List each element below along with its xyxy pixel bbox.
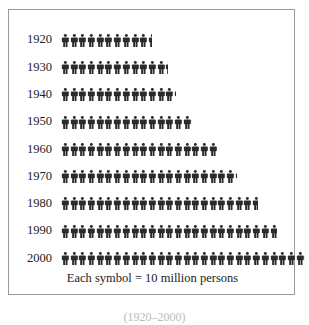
person-icon [70,143,79,156]
person-icon [104,197,113,210]
person-icon [96,34,105,47]
person-icon [61,61,70,74]
person-icon [87,34,96,47]
partial-person-icon [235,170,238,183]
pictograph-row-1930: 1930 [27,53,305,80]
year-label: 1960 [27,143,61,156]
person-icon [165,252,174,265]
person-icon [70,88,79,101]
person-icon [122,116,131,129]
person-icon [122,61,131,74]
person-icon [243,252,252,265]
partial-person-icon [270,225,278,238]
person-icon [252,225,261,238]
person-icon [78,61,87,74]
pictograph-row-1940: 1940 [27,81,305,108]
pictograph-row-1970: 1970 [27,162,305,189]
person-icon [131,88,140,101]
person-icon [200,252,209,265]
partial-person-icon [165,61,168,74]
person-icon [113,116,122,129]
person-icon [157,252,166,265]
person-icon [174,252,183,265]
person-icon [165,116,174,129]
year-label: 1970 [27,170,61,183]
person-icon [104,34,113,47]
person-icon [183,143,192,156]
symbol-bar [61,115,192,129]
person-icon [243,197,252,210]
person-icon [113,170,122,183]
person-icon [131,143,140,156]
person-icon [191,170,200,183]
person-icon [200,170,209,183]
person-icon [157,170,166,183]
person-icon [78,170,87,183]
partial-person-icon [304,252,305,265]
person-icon [191,252,200,265]
person-icon [96,197,105,210]
partial-person-icon [148,34,152,47]
person-icon [217,197,226,210]
person-icon [70,34,79,47]
person-icon [113,225,122,238]
person-icon [78,143,87,156]
person-icon [139,252,148,265]
person-icon [70,116,79,129]
person-icon [252,252,261,265]
person-icon [148,225,157,238]
partial-person-icon [174,88,176,101]
year-label: 1990 [27,224,61,237]
person-icon [165,143,174,156]
person-icon [87,61,96,74]
person-icon [174,197,183,210]
person-icon [165,170,174,183]
person-icon [61,143,70,156]
person-icon [104,225,113,238]
person-icon [183,170,192,183]
person-icon [243,225,252,238]
person-icon [122,34,131,47]
person-icon [226,225,235,238]
person-icon [200,225,209,238]
person-icon [96,61,105,74]
person-icon [113,34,122,47]
person-icon [148,61,157,74]
person-icon [122,225,131,238]
person-icon [200,197,209,210]
person-icon [287,252,296,265]
person-icon [183,225,192,238]
person-icon [226,170,235,183]
person-icon [174,225,183,238]
person-icon [209,197,218,210]
person-icon [61,170,70,183]
person-icon [157,225,166,238]
partial-person-icon [191,116,192,129]
year-label: 1930 [27,61,61,74]
person-icon [96,225,105,238]
pictograph-row-1980: 1980 [27,190,305,217]
person-icon [131,197,140,210]
year-label: 1950 [27,115,61,128]
symbol-bar [61,60,168,74]
person-icon [61,34,70,47]
partial-person-icon [209,143,217,156]
year-label: 1940 [27,88,61,101]
person-icon [87,170,96,183]
person-icon [165,88,174,101]
person-icon [96,170,105,183]
person-icon [217,225,226,238]
person-icon [104,252,113,265]
person-icon [61,116,70,129]
legend-text: Each symbol = 10 million persons [9,271,296,286]
person-icon [87,143,96,156]
person-icon [131,252,140,265]
person-icon [191,197,200,210]
person-icon [200,143,209,156]
person-icon [270,252,279,265]
person-icon [209,252,218,265]
person-icon [96,252,105,265]
person-icon [61,197,70,210]
person-icon [278,252,287,265]
person-icon [70,225,79,238]
